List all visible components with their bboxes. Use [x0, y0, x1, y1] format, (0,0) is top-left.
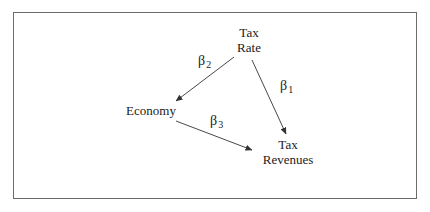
- node-tax-rate-line-1: Tax: [229, 25, 269, 40]
- node-economy: Economy: [122, 103, 180, 118]
- edge-label-beta-3: β3: [210, 113, 223, 130]
- node-tax-revenues: Tax Revenues: [258, 137, 318, 167]
- beta-subscript: 2: [206, 59, 211, 70]
- node-tax-rate: Tax Rate: [229, 25, 269, 55]
- edge-tax-rate-to-tax-revenues: [252, 60, 286, 134]
- node-tax-rate-line-2: Rate: [229, 40, 269, 55]
- node-economy-line-1: Economy: [122, 103, 180, 118]
- node-tax-revenues-line-2: Revenues: [258, 152, 318, 167]
- beta-subscript: 1: [288, 84, 293, 95]
- diagram-edges: [0, 0, 430, 212]
- beta-subscript: 3: [218, 119, 223, 130]
- edge-label-beta-2: β2: [198, 53, 211, 70]
- node-tax-revenues-line-1: Tax: [258, 137, 318, 152]
- beta-symbol: β: [198, 53, 205, 68]
- edge-label-beta-1: β1: [280, 78, 293, 95]
- beta-symbol: β: [280, 78, 287, 93]
- beta-symbol: β: [210, 113, 217, 128]
